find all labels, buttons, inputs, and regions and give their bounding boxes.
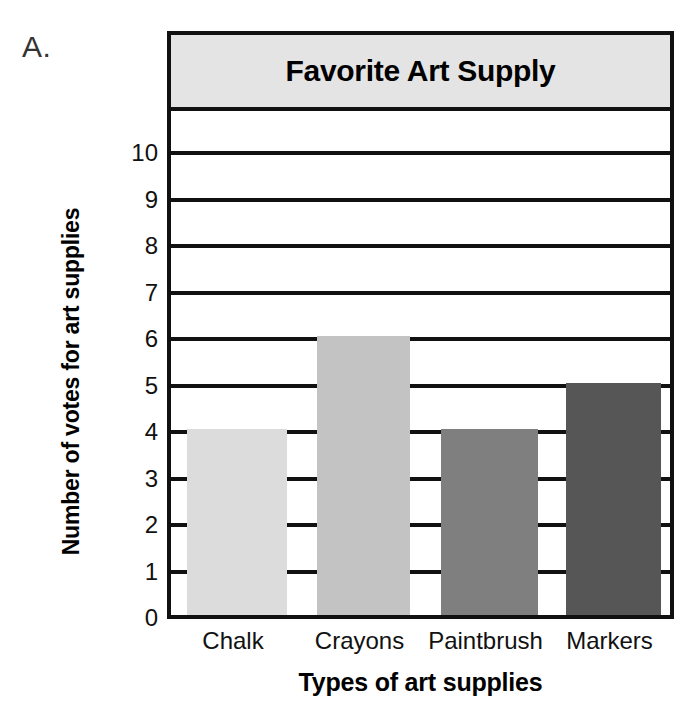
gridline	[171, 291, 670, 295]
bar-chalk[interactable]	[187, 429, 287, 615]
y-tick-label: 6	[118, 327, 158, 351]
gridline-tick	[410, 570, 441, 574]
gridline-tick	[287, 570, 317, 574]
gridline	[171, 198, 670, 202]
chart-plot-frame: Favorite Art Supply	[167, 31, 674, 619]
y-tick-label: 4	[118, 420, 158, 444]
plot-area	[171, 111, 670, 615]
y-tick-label: 8	[118, 234, 158, 258]
gridline-tick	[171, 523, 187, 527]
y-tick-label: 3	[118, 467, 158, 491]
chart-title: Favorite Art Supply	[286, 54, 556, 88]
gridline-tick	[171, 570, 187, 574]
gridline	[171, 151, 670, 155]
y-tick-label: 7	[118, 281, 158, 305]
y-tick-label: 0	[118, 606, 158, 630]
x-axis-tick-labels: ChalkCrayonsPaintbrushMarkers	[167, 628, 674, 662]
y-tick-label: 5	[118, 374, 158, 398]
panel-label: A.	[22, 30, 51, 64]
y-tick-label: 2	[118, 513, 158, 537]
gridline-tick	[538, 570, 566, 574]
chart-title-band: Favorite Art Supply	[171, 35, 670, 111]
x-tick-label-markers: Markers	[530, 628, 690, 654]
gridline-tick	[287, 523, 317, 527]
x-axis-title: Types of art supplies	[167, 668, 674, 697]
gridline-tick	[538, 477, 566, 481]
gridline-tick	[410, 523, 441, 527]
gridline	[171, 244, 670, 248]
bar-crayons[interactable]	[317, 336, 410, 615]
gridline	[171, 337, 670, 341]
y-tick-label: 1	[118, 560, 158, 584]
bar-markers[interactable]	[566, 383, 661, 616]
gridline-tick	[538, 523, 566, 527]
y-axis-title: Number of votes for art supplies	[58, 172, 85, 592]
gridline-tick	[287, 477, 317, 481]
bar-paintbrush[interactable]	[441, 429, 538, 615]
y-tick-label: 10	[118, 141, 158, 165]
gridline-tick	[410, 477, 441, 481]
y-tick-label: 9	[118, 188, 158, 212]
gridline-tick	[171, 477, 187, 481]
y-axis-tick-labels: 012345678910	[108, 0, 158, 724]
